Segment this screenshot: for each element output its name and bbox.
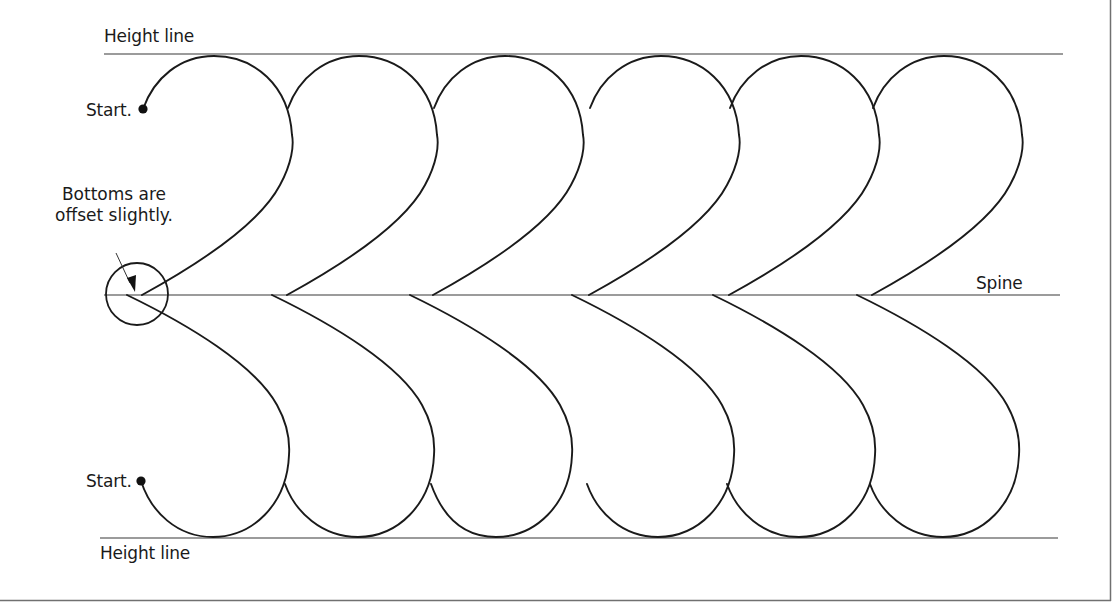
bottom-plume xyxy=(127,295,289,537)
feather-diagram: Height line Start. Bottoms are offset sl… xyxy=(0,0,1114,603)
bottom-plume xyxy=(410,295,572,537)
bottom-plume xyxy=(572,295,734,537)
bottom-plumes xyxy=(127,295,1019,537)
top-plume xyxy=(433,56,584,295)
top-plume xyxy=(287,56,438,295)
top-plume xyxy=(872,56,1023,295)
offset-callout-text: Bottoms are offset slightly. xyxy=(48,184,180,226)
callout-arrow-head-icon xyxy=(127,275,136,292)
bottom-plume xyxy=(272,295,434,537)
callout-line-1: Bottoms are xyxy=(48,184,180,205)
top-height-line-label: Height line xyxy=(104,26,194,46)
top-plume xyxy=(589,56,740,295)
top-plume xyxy=(729,56,880,295)
offset-callout-circle xyxy=(106,263,168,325)
top-plume xyxy=(142,56,293,295)
spine-label: Spine xyxy=(976,273,1023,293)
top-start-dot xyxy=(138,104,147,113)
bottom-start-label: Start. xyxy=(86,471,132,491)
bottom-plume xyxy=(857,295,1019,537)
top-start-label: Start. xyxy=(86,100,132,120)
bottom-start-dot xyxy=(136,476,145,485)
bottom-height-line-label: Height line xyxy=(100,543,190,563)
top-plumes xyxy=(142,56,1023,295)
callout-line-2: offset slightly. xyxy=(48,205,180,226)
bottom-plume xyxy=(713,295,875,537)
feather-drawing xyxy=(0,0,1114,603)
